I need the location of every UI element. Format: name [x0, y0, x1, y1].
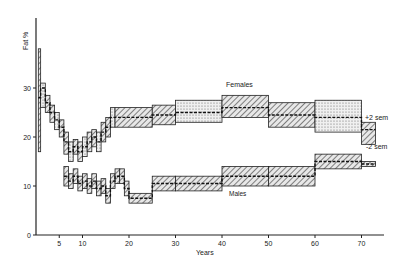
sem-band	[222, 95, 269, 117]
x-axis-ticks: 510203040506070	[57, 235, 365, 247]
svg-text:70: 70	[358, 240, 366, 247]
svg-text:50: 50	[265, 240, 273, 247]
males-label: Males	[229, 190, 247, 197]
y-axis-label: Fat %	[22, 32, 29, 50]
females-series	[38, 49, 375, 162]
y-axis-ticks: 0102030	[23, 85, 36, 239]
svg-text:30: 30	[172, 240, 180, 247]
svg-text:30: 30	[23, 85, 31, 92]
males-series	[64, 154, 376, 203]
svg-text:20: 20	[125, 240, 133, 247]
svg-text:20: 20	[23, 134, 31, 141]
fat-percentage-chart: 510203040506070 0102030 Fat % Years Fema…	[0, 0, 412, 267]
svg-text:10: 10	[23, 183, 31, 190]
females-label: Females	[226, 81, 253, 88]
svg-text:10: 10	[79, 240, 87, 247]
sem-band	[315, 100, 362, 132]
plus-sem-label: +2 sem	[365, 114, 388, 121]
svg-text:5: 5	[57, 240, 61, 247]
svg-text:60: 60	[311, 240, 319, 247]
svg-text:40: 40	[218, 240, 226, 247]
minus-sem-label: -2 sem	[366, 143, 388, 150]
sem-band	[176, 100, 223, 122]
svg-text:0: 0	[27, 232, 31, 239]
sem-band	[362, 122, 376, 144]
x-axis-label: Years	[196, 249, 214, 256]
